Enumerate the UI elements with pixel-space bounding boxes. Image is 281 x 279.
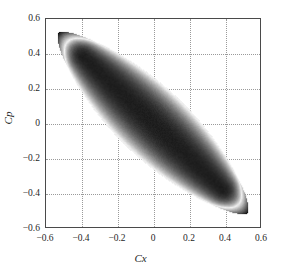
y-tick-label: −0.6 [4, 223, 40, 233]
y-axis-title-text: Cp [2, 112, 14, 125]
y-tick-label: 0.6 [4, 13, 40, 23]
y-tick-label: 0.2 [4, 83, 40, 93]
x-tick-label: −0.4 [61, 233, 101, 243]
gridline-vertical [226, 19, 227, 227]
gridline-horizontal [46, 159, 260, 160]
x-tick-label: 0.4 [205, 233, 245, 243]
heatmap-lens-region [46, 19, 260, 227]
x-tick-label: 0.6 [241, 233, 281, 243]
gridline-horizontal [46, 124, 260, 125]
gridline-vertical [154, 19, 155, 227]
y-tick-label: 0.4 [4, 48, 40, 58]
gridline-vertical [190, 19, 191, 227]
gridline-horizontal [46, 89, 260, 90]
x-axis-title: Cx [0, 252, 281, 264]
y-tick-label: −0.4 [4, 188, 40, 198]
gridline-vertical [82, 19, 83, 227]
gridline-vertical [118, 19, 119, 227]
x-tick-label: −0.2 [97, 233, 137, 243]
y-axis-title: Cp [0, 108, 28, 126]
chart-figure: 0.60.40.20−0.2−0.4−0.6 −0.6−0.4−0.200.20… [0, 0, 281, 279]
x-tick-label: 0 [133, 233, 173, 243]
y-tick-label: −0.2 [4, 153, 40, 163]
gridline-horizontal [46, 54, 260, 55]
x-tick-label: 0.2 [169, 233, 209, 243]
x-tick-label: −0.6 [25, 233, 65, 243]
gridline-horizontal [46, 194, 260, 195]
plot-area: 0.40.350.30.250.20.15 [45, 18, 261, 228]
